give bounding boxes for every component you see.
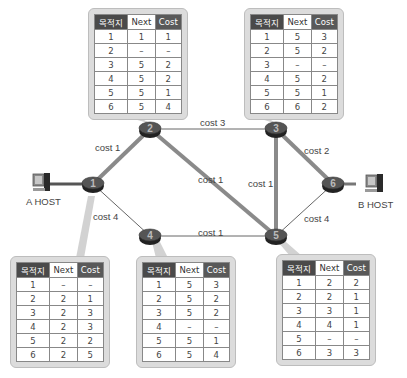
- cell-destination: 3: [95, 58, 128, 72]
- cell-cost: –: [155, 44, 181, 58]
- table-row: 551: [251, 86, 338, 100]
- routing-table-router-1: 목적지 Next Cost 1––221323423522625: [10, 256, 110, 368]
- cell-destination: 4: [251, 72, 284, 86]
- cell-next: 5: [176, 348, 204, 362]
- table-row: 323: [17, 306, 104, 320]
- table-row: 352: [143, 306, 230, 320]
- cell-cost: 3: [77, 320, 103, 334]
- table-row: 252: [251, 44, 338, 58]
- link-label-4-5: cost 1: [198, 227, 223, 238]
- callout-pointer-r1: [76, 196, 95, 258]
- cell-next: –: [316, 332, 344, 346]
- cell-cost: 4: [155, 100, 181, 114]
- col-header-next: Next: [50, 263, 78, 278]
- host-a[interactable]: A HOST: [26, 173, 61, 207]
- routing-table-router-2: 목적지 Next Cost 1112––352452551654: [88, 8, 188, 120]
- routing-table-router-5: 목적지 Next Cost 1222213314415––633: [276, 254, 376, 366]
- cell-next: 4: [316, 318, 344, 332]
- cell-cost: 2: [155, 72, 181, 86]
- router-6[interactable]: 6: [322, 177, 344, 193]
- cell-destination: 1: [251, 30, 284, 44]
- table-row: 1––: [17, 278, 104, 292]
- table-row: 221: [17, 292, 104, 306]
- cell-next: 5: [284, 30, 312, 44]
- cell-cost: 2: [203, 306, 229, 320]
- router-4[interactable]: 4: [139, 229, 161, 245]
- table-row: 441: [283, 318, 370, 332]
- table-row: 551: [143, 334, 230, 348]
- cell-next: 3: [316, 304, 344, 318]
- table-row: 452: [95, 72, 182, 86]
- cell-next: 2: [50, 292, 78, 306]
- router-3[interactable]: 3: [265, 122, 287, 138]
- cell-cost: 1: [203, 334, 229, 348]
- cell-destination: 4: [283, 318, 316, 332]
- col-header-destination: 목적지: [17, 263, 50, 278]
- cell-cost: 2: [311, 72, 337, 86]
- cell-destination: 2: [143, 292, 176, 306]
- cell-cost: 1: [311, 86, 337, 100]
- cell-next: 2: [50, 306, 78, 320]
- table-row: 153: [251, 30, 338, 44]
- col-header-cost: Cost: [155, 15, 181, 30]
- host-a-label: A HOST: [26, 196, 61, 207]
- router-number: 5: [273, 230, 279, 241]
- cell-destination: 5: [283, 332, 316, 346]
- table-row: 625: [17, 348, 104, 362]
- cell-cost: 3: [311, 30, 337, 44]
- cell-next: 2: [316, 290, 344, 304]
- cell-next: 2: [316, 276, 344, 290]
- col-header-cost: Cost: [343, 261, 369, 276]
- router-5[interactable]: 5: [265, 229, 287, 245]
- cell-next: 5: [128, 100, 156, 114]
- col-header-next: Next: [316, 261, 344, 276]
- cell-destination: 1: [143, 278, 176, 292]
- router-number: 3: [273, 123, 279, 134]
- cell-next: 5: [176, 278, 204, 292]
- cell-destination: 1: [95, 30, 128, 44]
- link-label-2-3: cost 3: [200, 117, 225, 128]
- cell-destination: 1: [283, 276, 316, 290]
- link-label-3-5: cost 1: [248, 178, 273, 189]
- cell-destination: 4: [17, 320, 50, 334]
- cell-next: 5: [284, 72, 312, 86]
- cell-next: 2: [50, 334, 78, 348]
- computer-icon: [365, 174, 383, 192]
- link-3-6: [276, 129, 333, 184]
- cell-destination: 6: [251, 100, 284, 114]
- table-row: 551: [95, 86, 182, 100]
- cell-cost: 3: [203, 278, 229, 292]
- cell-next: 5: [128, 58, 156, 72]
- col-header-destination: 목적지: [95, 15, 128, 30]
- cell-cost: 1: [343, 290, 369, 304]
- cell-destination: 2: [283, 290, 316, 304]
- cell-destination: 6: [95, 100, 128, 114]
- cell-next: 5: [176, 292, 204, 306]
- col-header-next: Next: [176, 263, 204, 278]
- cell-cost: 3: [77, 306, 103, 320]
- col-header-cost: Cost: [203, 263, 229, 278]
- table-row: 3––: [251, 58, 338, 72]
- router-number: 2: [147, 123, 153, 134]
- table-row: 352: [95, 58, 182, 72]
- cell-cost: 2: [311, 44, 337, 58]
- cell-next: 5: [128, 86, 156, 100]
- table-row: 331: [283, 304, 370, 318]
- router-1[interactable]: 1: [82, 177, 104, 193]
- table-row: 252: [143, 292, 230, 306]
- col-header-next: Next: [128, 15, 156, 30]
- cell-cost: 1: [343, 304, 369, 318]
- host-b[interactable]: B HOST: [358, 174, 394, 210]
- cell-cost: 1: [155, 30, 181, 44]
- cell-destination: 4: [95, 72, 128, 86]
- table-row: 452: [251, 72, 338, 86]
- table-row: 633: [283, 346, 370, 360]
- cell-cost: 4: [203, 348, 229, 362]
- router-2[interactable]: 2: [139, 122, 161, 138]
- cell-cost: 5: [77, 348, 103, 362]
- cell-destination: 6: [283, 346, 316, 360]
- col-header-destination: 목적지: [283, 261, 316, 276]
- table-row: 423: [17, 320, 104, 334]
- cell-cost: 1: [155, 86, 181, 100]
- table-row: 2––: [95, 44, 182, 58]
